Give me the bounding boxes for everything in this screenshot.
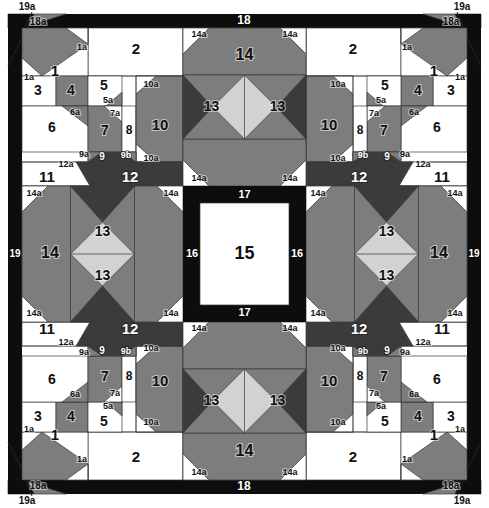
label-piece-9-bl: 9: [99, 345, 105, 356]
label-14a-top-tr: 14a: [282, 29, 298, 39]
label-piece-1-bl: 1: [51, 426, 59, 443]
label-piece-12-tl: 12: [122, 168, 139, 185]
label-18a-tr: 18a: [443, 16, 460, 27]
label-piece-11-bl: 11: [39, 320, 55, 337]
label-14a-top-br: 14a: [282, 173, 298, 183]
label-piece-4-tl: 4: [67, 82, 75, 98]
label-piece-4-br: 4: [414, 408, 422, 424]
label-19a-tl: 19a: [19, 1, 36, 12]
label-piece-1a-top-bl: 1a: [77, 454, 88, 464]
label-piece-6-tl: 6: [48, 119, 56, 135]
label-14a-left-br: 14a: [163, 308, 179, 318]
label-piece-7a-bl: 7a: [110, 388, 121, 398]
label-piece-13-top-right: 13: [270, 98, 286, 114]
label-piece-17-bottom: 17: [238, 306, 250, 318]
label-14a-right-br: 14a: [447, 308, 463, 318]
label-piece-2-br: 2: [349, 448, 357, 465]
label-piece-3-tr: 3: [447, 82, 455, 98]
label-piece-7a-tl: 7a: [110, 108, 121, 118]
label-piece-10a-br: 10a: [330, 417, 346, 427]
label-piece-11-tl: 11: [39, 168, 55, 185]
label-piece-5-br: 5: [381, 413, 389, 429]
label-piece-3-br: 3: [447, 408, 455, 424]
label-piece-9b-bl: 9b: [121, 346, 132, 356]
label-piece-6a-br: 6a: [409, 389, 420, 399]
label-piece-13-right-upper: 13: [379, 223, 395, 239]
label-piece-10-br: 10: [321, 372, 338, 389]
label-piece-9b-tl: 9b: [121, 150, 132, 160]
label-piece-6-bl: 6: [48, 371, 56, 387]
label-18a-bl: 18a: [30, 480, 47, 491]
label-piece-13-right-lower: 13: [379, 267, 395, 283]
label-piece-11-tr: 11: [434, 168, 450, 185]
label-piece-6a-bl: 6a: [70, 389, 81, 399]
label-14a-bot-tr: 14a: [282, 323, 298, 333]
label-piece-9a-tr: 9a: [400, 149, 411, 159]
label-piece-9a-tl: 9a: [79, 149, 90, 159]
label-piece-1a-top-br: 1a: [402, 454, 413, 464]
label-14a-right-tr: 14a: [447, 188, 463, 198]
label-piece-7a-br: 7a: [369, 388, 380, 398]
label-piece-8-bl: 8: [126, 369, 133, 383]
label-piece-9-tr: 9: [384, 151, 390, 162]
label-14a-right-tl: 14a: [310, 188, 326, 198]
label-piece-10a-tl: 10a: [143, 79, 159, 89]
label-14a-top-bl: 14a: [191, 173, 207, 183]
label-piece-10a-bl: 10a: [143, 417, 159, 427]
label-18a-br: 18a: [443, 480, 460, 491]
label-piece-12-br: 12: [351, 320, 368, 337]
label-piece-10a-lower-tr: 10a: [330, 153, 346, 163]
quilt-diagram-canvas: 11a1a23455a66a77a899a9b1010a10a1112a1211…: [0, 0, 489, 508]
label-piece-1a-top-tr: 1a: [402, 42, 413, 52]
label-piece-4-tr: 4: [414, 82, 422, 98]
label-piece-5a-tr: 5a: [376, 95, 387, 105]
label-piece-6-tr: 6: [433, 119, 441, 135]
label-18a-tl: 18a: [30, 16, 47, 27]
label-piece-14-right: 14: [430, 244, 448, 261]
label-piece-16-left: 16: [186, 247, 198, 259]
label-piece-1a-top-tl: 1a: [77, 42, 88, 52]
label-piece-18-top: 18: [237, 13, 251, 27]
label-piece-9a-br: 9a: [400, 347, 411, 357]
label-piece-10a-lower-br: 10a: [330, 343, 346, 353]
label-piece-12a-br: 12a: [415, 337, 431, 347]
label-14a-left-tl: 14a: [26, 188, 42, 198]
label-piece-4-bl: 4: [67, 408, 75, 424]
label-piece-5-tl: 5: [100, 77, 108, 93]
label-19a-tr: 19a: [454, 1, 471, 12]
label-piece-7a-tr: 7a: [369, 108, 380, 118]
label-piece-10-bl: 10: [152, 372, 169, 389]
label-19a-bl: 19a: [19, 495, 36, 506]
label-piece-17-top: 17: [238, 188, 250, 200]
label-14a-bot-bl: 14a: [191, 467, 207, 477]
label-piece-8-tl: 8: [126, 123, 133, 137]
label-piece-3-bl: 3: [34, 408, 42, 424]
piece-14-bottom: [135, 186, 184, 322]
label-piece-1-tl: 1: [51, 62, 59, 79]
label-piece-12-tr: 12: [351, 168, 368, 185]
label-14a-left-tr: 14a: [163, 188, 179, 198]
label-piece-13-bottom-right: 13: [270, 392, 286, 408]
label-piece-15: 15: [234, 243, 254, 263]
label-piece-1-tr: 1: [430, 62, 438, 79]
label-piece-5-tr: 5: [381, 77, 389, 93]
label-piece-1-br: 1: [430, 426, 438, 443]
label-piece-12a-tr: 12a: [415, 159, 431, 169]
label-piece-2-tr: 2: [349, 40, 357, 57]
label-piece-14-top: 14: [236, 46, 254, 63]
label-piece-13-left-lower: 13: [95, 267, 111, 283]
label-piece-11-br: 11: [434, 320, 450, 337]
label-piece-18-bottom: 18: [237, 479, 251, 493]
label-piece-6a-tr: 6a: [409, 107, 420, 117]
label-piece-9a-bl: 9a: [79, 347, 90, 357]
label-piece-5-bl: 5: [100, 413, 108, 429]
label-piece-10a-lower-tl: 10a: [143, 153, 159, 163]
label-piece-9b-br: 9b: [358, 346, 369, 356]
label-piece-1a-left-bl: 1a: [24, 424, 35, 434]
label-piece-6-br: 6: [433, 371, 441, 387]
label-piece-13-bottom-left: 13: [204, 392, 220, 408]
label-piece-6a-tl: 6a: [70, 107, 81, 117]
label-14a-bot-br: 14a: [282, 467, 298, 477]
label-piece-7-br: 7: [380, 368, 388, 384]
label-piece-5a-bl: 5a: [103, 401, 114, 411]
